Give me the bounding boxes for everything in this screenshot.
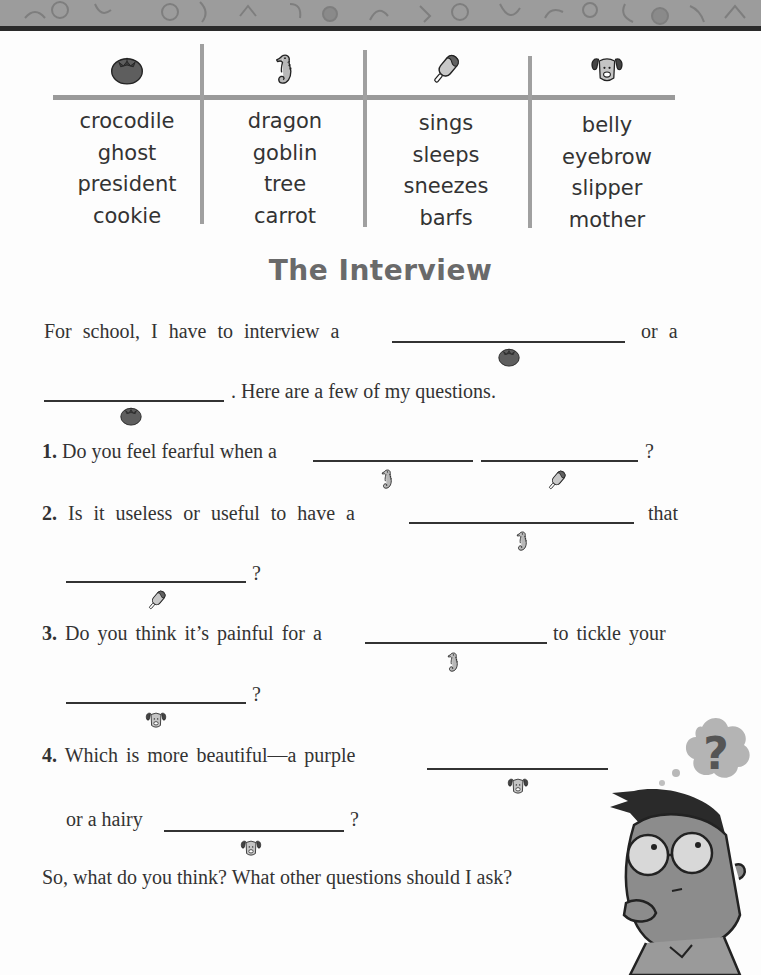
question-end: ? [252, 562, 261, 585]
popsicle-icon [545, 468, 569, 492]
word-item: mother [532, 205, 682, 237]
word-item: eyebrow [532, 142, 682, 174]
word-item: cookie [52, 201, 202, 233]
tomato-icon [119, 405, 143, 426]
question-end: ? [252, 683, 261, 706]
question-2: 2. Is it useless or useful to have a [42, 502, 355, 525]
seahorse-icon [447, 650, 460, 674]
closing-text: So, what do you think? What other questi… [42, 866, 512, 889]
page-title: The Interview [0, 254, 761, 287]
word-item: sneezes [371, 171, 521, 203]
seahorse-icon [275, 52, 295, 86]
word-item: sleeps [371, 140, 521, 172]
blank-intro-1[interactable] [392, 341, 625, 343]
intro-text-1: For school, I have to interview a [44, 320, 339, 343]
doodle-pattern [0, 0, 761, 26]
word-item: slipper [532, 173, 682, 205]
question-1: 1. Do you feel fearful when a [42, 440, 277, 463]
word-column-tomato: crocodile ghost president cookie [52, 44, 202, 232]
question-text: Is it useless or useful to have a [68, 502, 355, 524]
dog-icon [507, 776, 529, 796]
question-text-cont: or a hairy [66, 808, 143, 831]
question-end: ? [350, 808, 359, 831]
word-item: carrot [210, 201, 360, 233]
blank-intro-2[interactable] [44, 400, 224, 402]
table-column-divider [363, 50, 367, 227]
thinking-boy-illustration: ? [590, 715, 761, 975]
question-end: ? [645, 440, 654, 463]
seahorse-icon [381, 467, 394, 491]
popsicle-icon [145, 588, 169, 612]
question-text: Do you feel fearful when a [62, 440, 277, 462]
blank-q4-2[interactable] [164, 830, 344, 832]
intro-text-3: . Here are a few of my questions. [231, 380, 496, 403]
question-number: 3. [42, 622, 57, 644]
popsicle-icon [428, 51, 464, 87]
word-item: president [52, 169, 202, 201]
word-item: crocodile [52, 106, 202, 138]
header-pattern-band [0, 0, 761, 31]
question-text-cont: to tickle your [553, 622, 666, 645]
word-column-popsicle: sings sleeps sneezes barfs [371, 44, 521, 234]
blank-q2-1[interactable] [409, 522, 634, 524]
word-item: tree [210, 169, 360, 201]
question-3: 3. Do you think it’s painful for a [42, 622, 322, 645]
dog-icon [590, 54, 624, 85]
blank-q1-1[interactable] [313, 460, 473, 462]
question-text: Which is more beautiful—a purple [65, 744, 356, 766]
word-item: ghost [52, 138, 202, 170]
blank-q2-2[interactable] [66, 581, 246, 583]
svg-text:?: ? [703, 728, 729, 779]
intro-text-2: or a [641, 320, 678, 343]
question-number: 1. [42, 440, 57, 462]
blank-q1-2[interactable] [481, 460, 638, 462]
blank-q3-2[interactable] [66, 702, 246, 704]
tomato-icon [109, 54, 145, 85]
question-text-cont: that [648, 502, 678, 525]
blank-q3-1[interactable] [365, 642, 547, 644]
seahorse-icon [516, 529, 529, 553]
dog-icon [240, 838, 262, 858]
word-column-dog: belly eyebrow slipper mother [532, 44, 682, 236]
question-number: 4. [42, 744, 57, 766]
question-number: 2. [42, 502, 57, 524]
thought-bubble-icon: ? [659, 718, 750, 786]
dog-icon [145, 710, 167, 730]
word-bank-table: crocodile ghost president cookie dragon … [53, 44, 675, 234]
word-item: belly [532, 110, 682, 142]
word-item: goblin [210, 138, 360, 170]
blank-q4-1[interactable] [427, 768, 608, 770]
question-4: 4. Which is more beautiful—a purple [42, 744, 355, 767]
question-text: Do you think it’s painful for a [65, 622, 322, 644]
tomato-icon [497, 346, 521, 367]
word-item: barfs [371, 203, 521, 235]
word-column-seahorse: dragon goblin tree carrot [210, 44, 360, 232]
word-item: sings [371, 108, 521, 140]
word-item: dragon [210, 106, 360, 138]
